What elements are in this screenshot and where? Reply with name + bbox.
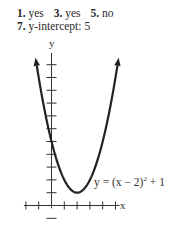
parabola-curve bbox=[37, 66, 118, 193]
x-axis-label: x bbox=[120, 199, 126, 211]
equation-label: y = (x − 2)2 + 1 bbox=[94, 175, 165, 189]
arrow-head-left-icon bbox=[34, 58, 40, 66]
parabola-graph: y x y = (x − 2)2 + 1 bbox=[0, 0, 187, 232]
arrow-head-right-icon bbox=[114, 58, 120, 66]
equation-rhs: + 1 bbox=[147, 176, 165, 188]
equation-lhs: y = (x − 2) bbox=[94, 176, 144, 189]
y-axis-label: y bbox=[49, 37, 55, 49]
